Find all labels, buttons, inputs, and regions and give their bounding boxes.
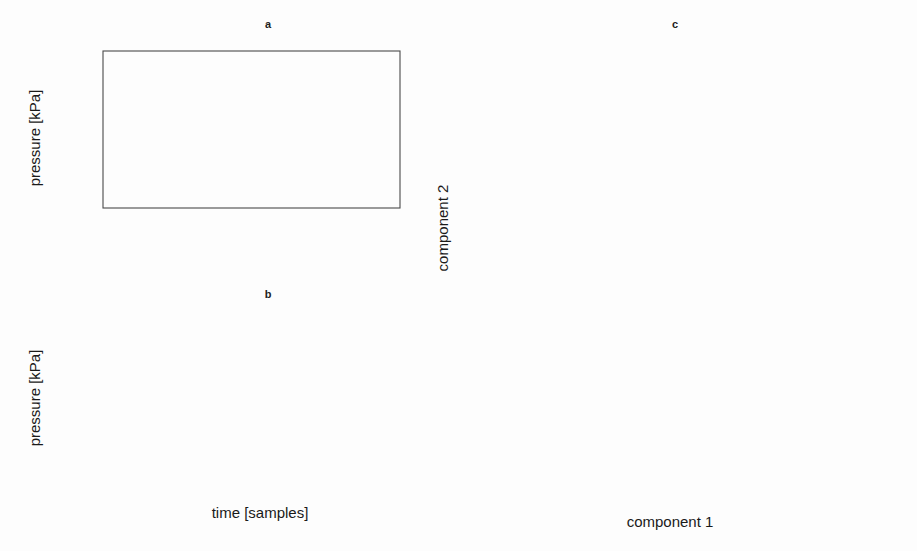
panel-a-plot: [0, 18, 430, 288]
panel-c: c component 2 component 1: [420, 18, 917, 551]
panel-c-title: c: [645, 18, 705, 30]
panel-a-ylabel: pressure [kPa]: [26, 58, 43, 218]
panel-b-xlabel: time [samples]: [100, 504, 420, 521]
panel-c-plot: [420, 18, 917, 551]
panel-b-ylabel: pressure [kPa]: [26, 318, 43, 478]
panel-b-title: b: [238, 288, 298, 300]
panel-a-title: a: [238, 18, 298, 30]
panel-a: a pressure [kPa]: [0, 18, 430, 288]
panel-c-xlabel: component 1: [460, 513, 880, 530]
plot-frame: [103, 51, 400, 208]
panel-c-ylabel: component 2: [434, 118, 451, 338]
figure-canvas: a pressure [kPa] b pressure [kPa] time […: [0, 0, 917, 551]
panel-b: b pressure [kPa] time [samples]: [0, 288, 430, 551]
